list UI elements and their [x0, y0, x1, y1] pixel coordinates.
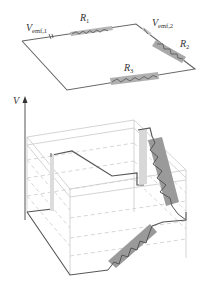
- circuit-loop: Vemf,1 R1 Vemf,2 R2 R3: [22, 12, 195, 90]
- battery-emf2: [142, 27, 152, 35]
- resistor-r2-drop: [148, 136, 186, 220]
- circuit-wire: [22, 24, 195, 90]
- label-vemf1: Vemf,1: [26, 22, 47, 34]
- label-vemf2: Vemf,2: [152, 17, 173, 29]
- resistor-r1: [70, 26, 113, 36]
- potential-path: [52, 151, 144, 185]
- potential-plot: V: [13, 95, 186, 275]
- v-axis-arrow-icon: [23, 96, 28, 103]
- resistor-r3-drop: [108, 224, 157, 270]
- ground-loop: [27, 203, 186, 275]
- label-r2: R2: [179, 38, 189, 50]
- emf1-step: [50, 153, 54, 211]
- label-r3: R3: [123, 62, 133, 74]
- v-axis-label: V: [13, 95, 21, 106]
- resistor-r3: [110, 72, 159, 85]
- circuit-potential-diagram: Vemf,1 R1 Vemf,2 R2 R3 V: [0, 0, 201, 283]
- label-r1: R1: [79, 12, 89, 24]
